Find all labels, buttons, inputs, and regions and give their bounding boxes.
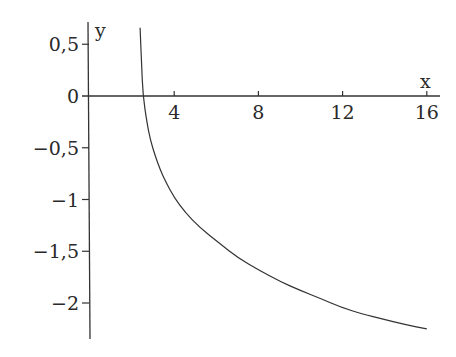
y-tick-label: 0 <box>67 85 79 107</box>
x-axis-label: x <box>420 70 431 92</box>
y-axis <box>88 22 90 339</box>
x-tick-label: 8 <box>252 101 264 123</box>
x-tick-label: 16 <box>415 101 439 123</box>
x-tick-label: 12 <box>331 101 355 123</box>
y-tick-label: −1 <box>51 189 79 211</box>
x-tick-label: 4 <box>168 101 180 123</box>
y-axis-label: y <box>94 19 106 41</box>
y-tick-label: 0,5 <box>49 33 79 55</box>
y-tick-label: −0,5 <box>33 137 79 159</box>
y-tick-label: −1,5 <box>33 240 79 262</box>
chart: 4812160,50−0,5−1−1,5−2 x y <box>0 0 456 357</box>
y-tick-label: −2 <box>51 292 79 314</box>
curve-line <box>140 28 427 329</box>
